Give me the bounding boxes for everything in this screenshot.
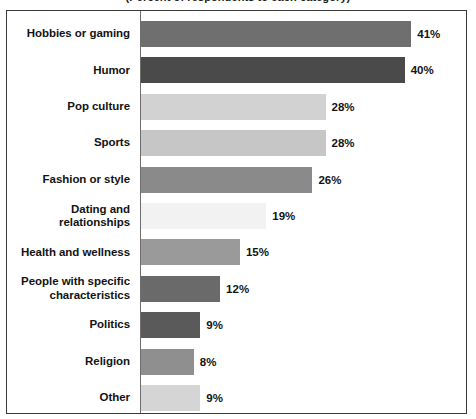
bar-category-label: Sports — [7, 130, 135, 156]
bar-rows: Hobbies or gaming41%Humor40%Pop culture2… — [7, 11, 466, 413]
bar-category-label: Dating and relationships — [7, 203, 135, 229]
bar-row: Religion8% — [7, 349, 466, 375]
bar — [141, 276, 220, 302]
bar-row: Politics9% — [7, 312, 466, 338]
bar — [141, 239, 240, 265]
bar-row: Other9% — [7, 385, 466, 411]
bar — [141, 349, 194, 375]
bar-value-label: 41% — [417, 21, 440, 47]
bar-row: Health and wellness15% — [7, 239, 466, 265]
bar-row: People with specificcharacteristics12% — [7, 276, 466, 302]
bar-value-label: 28% — [332, 94, 355, 120]
bar-value-label: 19% — [272, 203, 295, 229]
bar-value-label: 9% — [206, 312, 223, 338]
bar — [141, 94, 326, 120]
bar-row: Humor40% — [7, 57, 466, 83]
plot-area: Hobbies or gaming41%Humor40%Pop culture2… — [6, 10, 467, 414]
bar-category-label: Health and wellness — [7, 239, 135, 265]
bar — [141, 21, 411, 47]
bar — [141, 203, 266, 229]
bar-row: Fashion or style26% — [7, 167, 466, 193]
bar — [141, 57, 405, 83]
bar-value-label: 15% — [246, 239, 269, 265]
bar — [141, 312, 200, 338]
bar-row: Pop culture28% — [7, 94, 466, 120]
bar-category-label: Politics — [7, 312, 135, 338]
bar-category-label: Humor — [7, 57, 135, 83]
bar-category-label-line2: characteristics — [21, 289, 130, 303]
bar — [141, 167, 312, 193]
bar-category-label: People with specificcharacteristics — [7, 276, 135, 302]
bar-chart: (Percent of respondents to each category… — [0, 0, 476, 419]
bar-value-label: 12% — [226, 276, 249, 302]
bar-row: Dating and relationships19% — [7, 203, 466, 229]
bar-row: Hobbies or gaming41% — [7, 21, 466, 47]
bar-row: Sports28% — [7, 130, 466, 156]
bar — [141, 130, 326, 156]
bar-value-label: 28% — [332, 130, 355, 156]
bar-category-label: Hobbies or gaming — [7, 21, 135, 47]
bar-category-label: Pop culture — [7, 94, 135, 120]
bar-category-label: Religion — [7, 349, 135, 375]
bar-category-label: Other — [7, 385, 135, 411]
bar-value-label: 40% — [411, 57, 434, 83]
chart-title: (Percent of respondents to each category… — [0, 0, 476, 3]
bar-category-label: Fashion or style — [7, 167, 135, 193]
bar — [141, 385, 200, 411]
bar-category-label-line1: People with specific — [21, 275, 130, 289]
bar-value-label: 8% — [200, 349, 217, 375]
bar-value-label: 9% — [206, 385, 223, 411]
bar-value-label: 26% — [318, 167, 341, 193]
